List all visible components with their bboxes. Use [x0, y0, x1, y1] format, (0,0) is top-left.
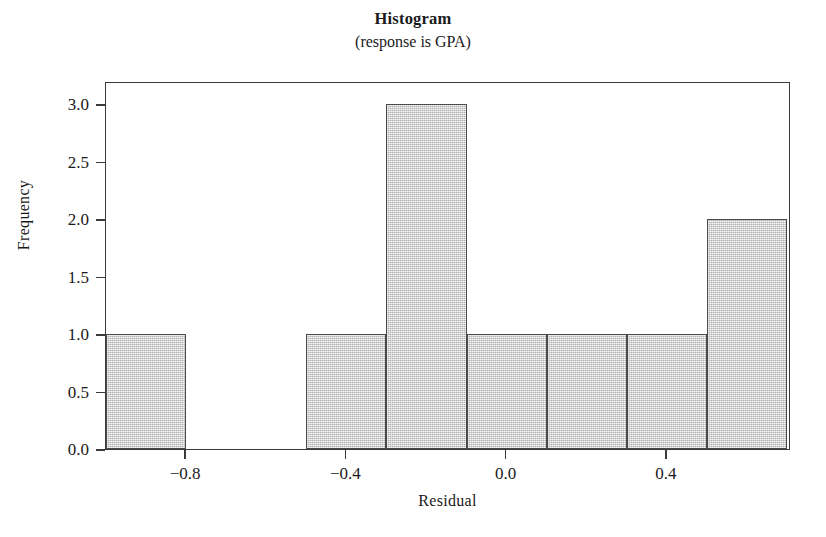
y-tick-label: 0.5 [45, 384, 89, 401]
y-tick-mark [96, 162, 105, 163]
y-tick-mark [96, 449, 105, 450]
x-tick-label: −0.8 [145, 464, 225, 484]
x-tick-mark [665, 450, 666, 459]
histogram-bar [547, 334, 627, 449]
histogram-bar [106, 334, 186, 449]
x-tick-mark [505, 450, 506, 459]
y-tick-mark [96, 277, 105, 278]
y-tick-mark [96, 219, 105, 220]
plot-area [105, 82, 790, 450]
y-tick-label: 3.0 [45, 96, 89, 113]
title-block: Histogram (response is GPA) [0, 8, 826, 54]
y-tick-mark [96, 392, 105, 393]
chart-subtitle: (response is GPA) [0, 30, 826, 54]
y-tick-label: 2.0 [45, 211, 89, 228]
y-tick-mark [96, 334, 105, 335]
x-tick-label: 0.0 [466, 464, 546, 484]
x-tick-mark [345, 450, 346, 459]
y-tick-label: 1.0 [45, 326, 89, 343]
y-tick-mark [96, 104, 105, 105]
histogram-bar [707, 219, 787, 449]
histogram-figure: Histogram (response is GPA) 0.00.51.01.5… [0, 0, 826, 537]
y-tick-label: 1.5 [45, 269, 89, 286]
x-tick-label: −0.4 [305, 464, 385, 484]
y-tick-label: 2.5 [45, 154, 89, 171]
histogram-bar [467, 334, 547, 449]
page-title: Histogram [0, 8, 826, 30]
x-axis-title: Residual [105, 492, 790, 510]
y-tick-label: 0.0 [45, 441, 89, 458]
bars-layer [106, 83, 789, 449]
histogram-bar [627, 334, 707, 449]
histogram-bar [306, 334, 386, 449]
y-axis-title: Frequency [15, 115, 33, 315]
x-tick-label: 0.4 [626, 464, 706, 484]
x-tick-mark [184, 450, 185, 459]
histogram-bar [386, 104, 466, 449]
